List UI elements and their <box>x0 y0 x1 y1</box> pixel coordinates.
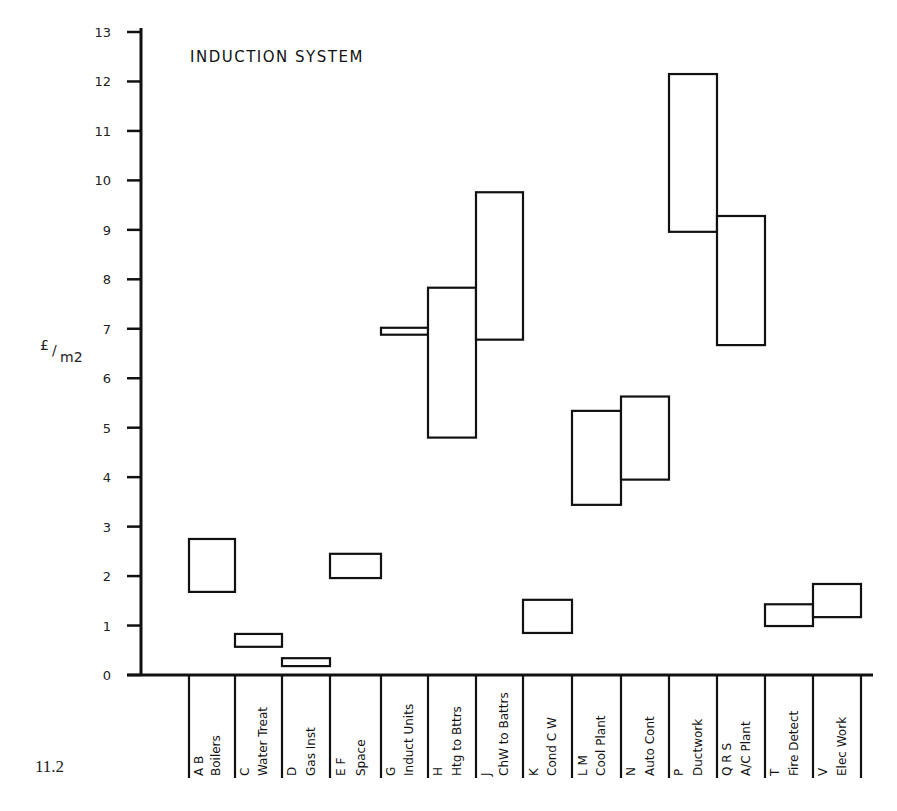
y-tick-label: 5 <box>103 421 111 436</box>
range-bar <box>523 600 572 633</box>
y-tick-label: 6 <box>103 371 111 386</box>
svg-text:A/C Plant: A/C Plant <box>739 721 753 776</box>
range-bar <box>282 658 330 666</box>
range-bar <box>235 634 282 647</box>
svg-text:Q R S: Q R S <box>720 743 734 776</box>
category-label: DGas Inst <box>285 727 317 776</box>
category-label: HHtg to Bttrs <box>431 706 463 776</box>
y-tick-label: 12 <box>94 74 111 89</box>
svg-text:D: D <box>285 767 299 776</box>
category-label: L MCool Plant <box>576 715 609 776</box>
svg-text:C: C <box>238 768 252 776</box>
category-labels: A BBoilersCWater TreatDGas InstE FSpaceG… <box>192 692 849 777</box>
category-label: TFire Detect <box>768 710 800 777</box>
y-tick-label: 7 <box>103 322 111 337</box>
category-label: KCond C W <box>527 717 560 776</box>
svg-text:/: / <box>52 342 57 358</box>
y-tick-label: 1 <box>103 619 111 634</box>
svg-text:Ductwork: Ductwork <box>691 719 705 776</box>
svg-text:P: P <box>672 769 686 776</box>
range-bar <box>330 554 381 578</box>
category-label: VElec Work <box>816 717 848 776</box>
svg-text:Boilers: Boilers <box>209 735 223 776</box>
svg-text:Elec Work: Elec Work <box>835 717 849 776</box>
y-tick-label: 2 <box>103 569 111 584</box>
range-bar <box>476 192 523 339</box>
y-axis: 012345678910111213 <box>94 25 141 683</box>
svg-text:ChW to Battrs: ChW to Battrs <box>497 692 511 776</box>
svg-text:G: G <box>384 767 398 776</box>
svg-text:K: K <box>527 767 541 776</box>
svg-text:Water Treat: Water Treat <box>256 707 270 776</box>
y-tick-label: 10 <box>94 173 111 188</box>
y-tick-label: 8 <box>103 272 111 287</box>
category-label: Q R SA/C Plant <box>720 721 752 776</box>
range-bar <box>572 411 621 505</box>
svg-text:Space: Space <box>354 739 368 776</box>
category-label: PDuctwork <box>672 719 704 776</box>
svg-text:E F: E F <box>334 758 348 776</box>
svg-text:Fire Detect: Fire Detect <box>787 710 801 776</box>
y-axis-label: £ / m2 <box>40 337 83 365</box>
svg-text:H: H <box>431 767 445 776</box>
category-label: E FSpace <box>334 739 367 776</box>
category-label: CWater Treat <box>238 707 270 776</box>
svg-text:L M: L M <box>576 755 590 776</box>
y-tick-label: 4 <box>103 470 111 485</box>
y-tick-label: 3 <box>103 520 111 535</box>
svg-text:Cond C W: Cond C W <box>545 717 559 776</box>
induction-system-chart: 012345678910111213 A BBoilersCWater Trea… <box>0 0 897 811</box>
range-bar <box>669 74 717 232</box>
category-label: A BBoilers <box>192 735 223 776</box>
range-bar <box>428 288 476 438</box>
y-tick-label: 13 <box>94 25 111 40</box>
svg-text:m2: m2 <box>60 349 83 365</box>
svg-text:N: N <box>624 767 638 776</box>
range-bar <box>189 539 235 592</box>
category-label: JChW to Battrs <box>479 692 511 777</box>
y-tick-label: 0 <box>103 668 111 683</box>
y-tick-label: 11 <box>94 124 111 139</box>
range-bar <box>621 397 669 480</box>
svg-text:Gas Inst: Gas Inst <box>304 727 318 776</box>
svg-text:Cool Plant: Cool Plant <box>594 715 608 776</box>
y-tick-label: 9 <box>103 223 111 238</box>
svg-text:Auto Cont: Auto Cont <box>643 716 657 776</box>
range-bar <box>717 216 765 345</box>
svg-text:T: T <box>768 768 782 777</box>
svg-text:J: J <box>479 772 493 777</box>
cost-range-bars <box>189 74 861 666</box>
svg-text:V: V <box>816 767 830 776</box>
category-label: GInduct Units <box>384 704 416 776</box>
range-bar <box>381 328 428 335</box>
svg-text:Induct Units: Induct Units <box>402 704 416 776</box>
category-label: NAuto Cont <box>624 716 656 776</box>
range-bar <box>813 584 861 617</box>
figure-number: 11.2 <box>35 757 64 777</box>
svg-text:Htg to Bttrs: Htg to Bttrs <box>450 706 464 776</box>
range-bar <box>765 604 813 626</box>
svg-text:£: £ <box>40 337 49 353</box>
svg-text:A B: A B <box>192 756 206 776</box>
chart-title: INDUCTION SYSTEM <box>190 48 364 66</box>
